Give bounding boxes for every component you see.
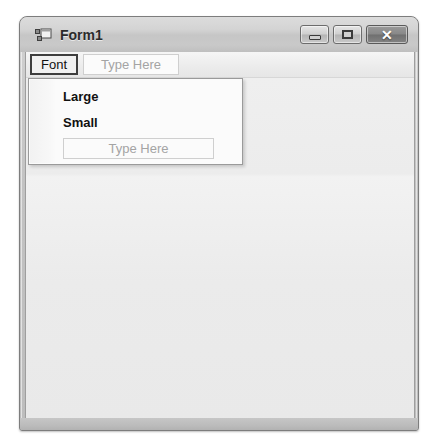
dropdown-item-large[interactable]: Large: [29, 83, 242, 109]
title-bar[interactable]: Form1 ✕: [20, 17, 418, 52]
window-bottom-frame: [20, 418, 418, 430]
maximize-button[interactable]: [333, 25, 362, 44]
menu-strip: Font Type Here: [26, 52, 414, 78]
menu-item-font[interactable]: Font: [30, 54, 78, 75]
minimize-button[interactable]: [300, 25, 329, 44]
window-controls: ✕: [300, 25, 408, 44]
font-dropdown-menu: Large Small Type Here: [28, 78, 243, 165]
form-designer-icon: [35, 28, 52, 43]
dropdown-item-small[interactable]: Small: [29, 109, 242, 135]
close-button[interactable]: ✕: [366, 25, 408, 44]
dropdown-type-here-placeholder[interactable]: Type Here: [63, 138, 214, 159]
window-title: Form1: [60, 27, 103, 43]
menu-strip-type-here-placeholder[interactable]: Type Here: [83, 54, 179, 75]
maximize-icon: [342, 30, 353, 39]
form-client-area: Font Type Here Large Small Type Here: [25, 52, 415, 420]
application-window: Form1 ✕ Font Type Here Large Small Typ: [19, 16, 419, 431]
close-icon: ✕: [381, 28, 393, 42]
minimize-icon: [309, 35, 321, 40]
